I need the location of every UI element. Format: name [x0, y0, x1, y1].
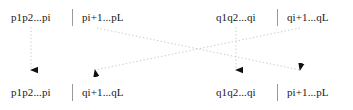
- crossover-diagram: p1p2...pi pi+1...pL q1q2...qi qi+1...qL …: [0, 0, 353, 110]
- child-2-right-segment: pi+1...pL: [287, 86, 329, 98]
- parent-p-left-segment: p1p2...pi: [11, 11, 51, 23]
- child-1-divider: [72, 84, 73, 101]
- parent-p-right-segment: pi+1...pL: [82, 11, 124, 23]
- parent-q-left-segment: q1q2...qi: [216, 11, 256, 23]
- parent-p-divider: [72, 9, 73, 26]
- parent-q-right-segment: qi+1...qL: [287, 11, 329, 23]
- child-1-left-segment: p1p2...pi: [11, 86, 51, 98]
- child-2-divider: [277, 84, 278, 101]
- child-1-right-segment: qi+1...qL: [82, 86, 124, 98]
- child-2-left-segment: q1q2...qi: [216, 86, 256, 98]
- connector-p-tail-cross: [97, 28, 300, 70]
- parent-q-divider: [277, 9, 278, 26]
- connector-q-tail-cross: [95, 28, 300, 70]
